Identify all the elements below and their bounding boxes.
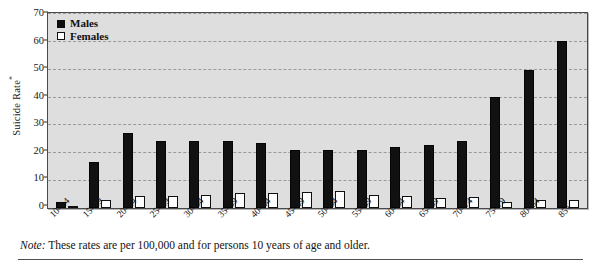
suicide-rate-by-age-and-sex-chart: Suicide Rate* 010203040506070 Males Fema…	[0, 0, 601, 268]
legend: Males Females	[54, 16, 114, 44]
x-axis-tick: 85+	[552, 209, 586, 243]
legend-label-females: Females	[70, 31, 108, 43]
x-axis-tick: 35–39	[217, 209, 251, 243]
x-axis-tick: 50–54	[318, 209, 352, 243]
bar-group	[384, 13, 417, 208]
x-axis-tick: 15–19	[83, 209, 117, 243]
legend-swatch-males-icon	[57, 20, 65, 28]
y-axis-tick-label: 60	[34, 34, 45, 45]
bar-group	[184, 13, 217, 208]
plot-area: Males Females	[47, 12, 588, 209]
y-axis-tick-labels: 010203040506070	[18, 10, 44, 210]
bar-group	[117, 13, 150, 208]
bar-group	[485, 13, 518, 208]
bar-group	[150, 13, 183, 208]
y-axis-footnote-marker: *	[8, 76, 17, 80]
bar-group	[451, 13, 484, 208]
bar-group	[318, 13, 351, 208]
x-axis-tick: 70–74	[452, 209, 486, 243]
x-axis-tick: 65–69	[418, 209, 452, 243]
x-axis-tick: 75–79	[485, 209, 519, 243]
y-axis-tick-label: 10	[34, 172, 45, 183]
bar-groups	[48, 13, 587, 208]
bar-males	[557, 41, 567, 208]
footer-divider	[18, 259, 583, 260]
y-axis-tick-label: 50	[34, 62, 45, 73]
x-axis-tick: 25–29	[150, 209, 184, 243]
bar-group	[351, 13, 384, 208]
x-axis-tick: 30–34	[183, 209, 217, 243]
bar-males	[524, 70, 534, 208]
y-axis-tick-label: 20	[34, 144, 45, 155]
x-axis-tick: 45–49	[284, 209, 318, 243]
figure-note-text: These rates are per 100,000 and for pers…	[48, 239, 370, 251]
legend-item-males: Males	[57, 18, 108, 30]
x-axis-tick: 20–24	[116, 209, 150, 243]
legend-swatch-females-icon	[57, 32, 65, 40]
x-axis-tick: 10–14	[49, 209, 83, 243]
x-axis-tick-labels: 10–1415–1920–2425–2930–3435–3940–4445–49…	[47, 209, 588, 243]
bar-group	[251, 13, 284, 208]
figure-note: Note: These rates are per 100,000 and fo…	[20, 239, 370, 251]
bar-group	[518, 13, 551, 208]
y-axis-tick-label: 70	[34, 7, 45, 18]
figure-note-keyword: Note:	[20, 239, 46, 251]
y-axis-tick-label: 30	[34, 117, 45, 128]
bar-group	[284, 13, 317, 208]
bar-group	[552, 13, 585, 208]
x-axis-tick: 40–44	[250, 209, 284, 243]
x-axis-tick: 80–84	[519, 209, 553, 243]
bar-males	[490, 97, 500, 208]
bar-group	[217, 13, 250, 208]
x-axis-tick: 55–59	[351, 209, 385, 243]
bar-group	[418, 13, 451, 208]
y-axis-tick-label: 40	[34, 89, 45, 100]
legend-label-males: Males	[70, 18, 98, 30]
bar-females	[68, 206, 78, 208]
legend-item-females: Females	[57, 31, 108, 43]
x-axis-tick: 60–64	[385, 209, 419, 243]
